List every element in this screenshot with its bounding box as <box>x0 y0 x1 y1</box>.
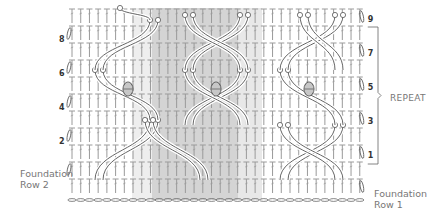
row-number-4: 4 <box>59 103 65 112</box>
foundation-row-2-label: Foundation Row 2 <box>20 168 73 190</box>
foundation-row-2-line1: Foundation <box>20 168 73 179</box>
foundation-row-1-line2: Row 1 <box>374 199 427 210</box>
row-number-7: 7 <box>368 49 374 58</box>
row-number-2: 2 <box>59 137 65 146</box>
repeat-bracket <box>368 27 381 164</box>
row-number-6: 6 <box>59 69 65 78</box>
row-number-9: 9 <box>368 15 374 24</box>
row-number-8: 8 <box>59 35 65 44</box>
foundation-row-1-label: Foundation Row 1 <box>374 188 427 210</box>
repeat-label: REPEAT <box>390 93 426 104</box>
foundation-row-2-line2: Row 2 <box>20 179 73 190</box>
row-number-5: 5 <box>368 83 374 92</box>
row-number-1: 1 <box>368 151 374 160</box>
foundation-row-1-line1: Foundation <box>374 188 427 199</box>
row-number-3: 3 <box>368 117 374 126</box>
